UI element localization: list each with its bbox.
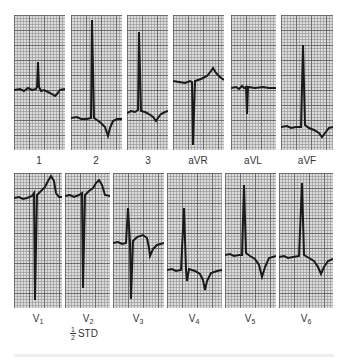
lead-label-2: 2	[68, 155, 124, 166]
lead-label-v5: V5	[222, 313, 278, 325]
ecg-panel-lead-avf	[281, 15, 333, 150]
ecg-panel-lead-v5	[225, 173, 276, 308]
ecg-trace-lead-avl	[231, 15, 276, 150]
ecg-trace-lead-1	[14, 15, 65, 150]
calibration-text: STD	[78, 328, 98, 339]
lead-label-v3: V3	[110, 313, 166, 325]
bottom-divider	[14, 354, 334, 357]
ecg-trace-lead-v2	[65, 173, 110, 308]
ecg-trace-lead-v5	[225, 173, 276, 308]
ecg-trace-lead-v3	[113, 173, 164, 308]
ecg-panel-lead-v2	[65, 173, 110, 308]
lead-label-3: 3	[120, 155, 176, 166]
ecg-panel-lead-v1	[14, 173, 62, 308]
lead-label-avf: aVF	[279, 155, 335, 166]
calibration-label: 1 2 STD	[70, 326, 98, 341]
ecg-trace-lead-avf	[281, 15, 333, 150]
lead-label-v1: V1	[10, 313, 66, 325]
lead-label-v2: V2	[60, 313, 116, 325]
ecg-panel-lead-3	[127, 15, 168, 150]
ecg-trace-lead-v6	[279, 173, 333, 308]
lead-label-1: 1	[11, 155, 67, 166]
ecg-panel-lead-2	[71, 15, 122, 150]
ecg-trace-lead-v1	[14, 173, 62, 308]
lead-label-avr: aVR	[170, 155, 226, 166]
lead-label-v6: V6	[278, 313, 334, 325]
ecg-panel-lead-v6	[279, 173, 333, 308]
ecg-trace-lead-2	[71, 15, 122, 150]
ecg-trace-lead-v4	[167, 173, 222, 308]
ecg-panel-lead-v3	[113, 173, 164, 308]
ecg-panel-lead-v4	[167, 173, 222, 308]
lead-label-v4: V4	[166, 313, 222, 325]
ecg-panel-lead-avr	[173, 15, 224, 150]
ecg-panel-lead-1	[14, 15, 65, 150]
ecg-panel-lead-avl	[231, 15, 276, 150]
lead-label-avl: aVL	[225, 155, 281, 166]
calibration-fraction: 1 2	[70, 326, 76, 341]
ecg-trace-lead-3	[127, 15, 168, 150]
ecg-trace-lead-avr	[173, 15, 224, 150]
